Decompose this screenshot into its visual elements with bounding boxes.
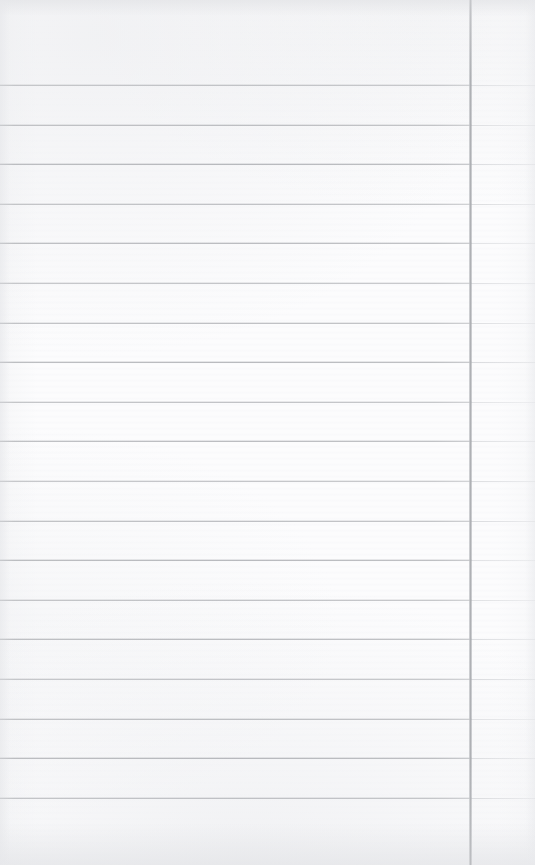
paper-sheet xyxy=(0,0,535,865)
scanned-page xyxy=(0,0,535,865)
